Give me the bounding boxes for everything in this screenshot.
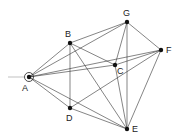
node-label-B: B: [65, 29, 71, 39]
edge-D-E: [70, 108, 127, 129]
edge-A-F: [29, 50, 161, 77]
node-label-F: F: [166, 45, 172, 55]
node-label-C: C: [117, 66, 124, 76]
node-D: [68, 106, 72, 110]
edge-A-D: [29, 77, 70, 108]
edge-A-G: [29, 22, 127, 77]
node-B: [68, 41, 72, 45]
edge-C-F: [115, 50, 161, 65]
graph-diagram: ABGFCDE: [0, 0, 180, 140]
node-G: [125, 20, 129, 24]
edge-B-G: [70, 22, 127, 43]
node-label-A: A: [22, 83, 28, 93]
edge-B-E: [70, 43, 127, 129]
nodes: [25, 20, 164, 131]
edge-B-C: [70, 43, 115, 65]
edge-F-E: [127, 50, 161, 129]
node-label-E: E: [132, 124, 138, 134]
edge-A-C: [29, 65, 115, 77]
edges: [29, 22, 161, 129]
edge-G-C: [115, 22, 127, 65]
node-A: [27, 75, 31, 79]
edge-G-F: [127, 22, 161, 50]
node-E: [125, 127, 129, 131]
node-F: [159, 48, 163, 52]
edge-D-F: [70, 50, 161, 108]
node-label-D: D: [66, 113, 73, 123]
node-label-G: G: [123, 8, 130, 18]
node-labels: ABGFCDE: [22, 8, 172, 134]
